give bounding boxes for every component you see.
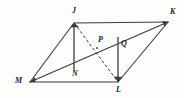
vertex-label-k: K: [170, 8, 175, 16]
diagonal-mk: [30, 22, 168, 82]
side-jk: [74, 22, 168, 23]
diagonal-jl: [74, 23, 118, 82]
arrowhead-at-j: [70, 23, 79, 28]
point-label-p: P: [98, 36, 103, 44]
geometry-canvas: [0, 0, 184, 98]
vertex-label-j: J: [72, 7, 76, 15]
point-label-n: N: [72, 70, 78, 78]
point-label-q: Q: [121, 40, 127, 48]
intersection-point-p: [96, 47, 98, 49]
vertex-label-l: L: [116, 86, 121, 94]
side-kl: [118, 22, 168, 82]
arrowhead-at-l: [114, 77, 123, 83]
vertex-label-m: M: [15, 77, 22, 85]
geometry-figure: J K L M N P Q: [0, 0, 184, 98]
side-mj: [30, 23, 74, 82]
